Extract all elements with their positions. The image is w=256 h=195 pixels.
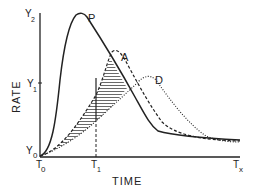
y-axis-label: RATE [10, 80, 22, 113]
x-tick-t0: T 0 [36, 159, 46, 174]
curve-a-label: A [121, 51, 129, 63]
y-tick-y0: Y 0 [26, 145, 38, 160]
svg-text:Y: Y [26, 145, 33, 156]
svg-text:1: 1 [97, 166, 101, 173]
y-tick-y2: Y 2 [25, 8, 35, 23]
svg-text:1: 1 [33, 86, 37, 93]
curve-d-label: D [155, 74, 163, 86]
svg-text:2: 2 [31, 16, 35, 23]
svg-text:x: x [239, 165, 243, 174]
shaded-region [40, 58, 127, 156]
rate-time-diagram: P A D Y 2 Y 1 Y 0 T 0 T 1 T x RATE TIME [0, 0, 256, 195]
curve-p-label: P [88, 12, 95, 24]
y-tick-y1: Y 1 [27, 78, 37, 93]
svg-text:0: 0 [41, 165, 46, 174]
x-tick-tx: T x [233, 159, 243, 174]
x-axis-label: TIME [112, 175, 142, 187]
x-tick-t1: T 1 [91, 159, 101, 173]
